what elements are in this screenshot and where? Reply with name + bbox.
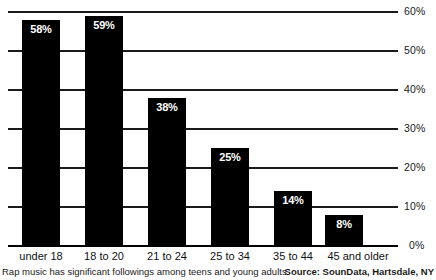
bar-chart-figure: 60% 50% 40% 30% 20% 10% 0% 58% 59% 38% 2… [0,0,436,280]
category-label-25-to-34: 25 to 34 [200,250,260,263]
category-label-45-and-older: 45 and older [316,250,400,263]
category-label-35-to-44: 35 to 44 [263,250,323,263]
category-label-21-to-24: 21 to 24 [137,250,197,263]
bar-value-18-to-20: 59% [85,19,123,31]
bar-value-45-and-older: 8% [325,218,363,230]
bar-21-to-24[interactable]: 38% [148,98,186,246]
bar-18-to-20[interactable]: 59% [85,16,123,246]
bar-45-and-older[interactable]: 8% [325,215,363,246]
bar-value-under-18: 58% [22,23,60,35]
category-axis: under 18 18 to 20 21 to 24 25 to 34 35 t… [0,250,436,266]
bar-25-to-34[interactable]: 25% [211,148,249,246]
category-label-under-18: under 18 [11,250,71,263]
bar-under-18[interactable]: 58% [22,20,60,246]
chart-footer: Rap music has significant followings amo… [0,266,436,280]
category-label-18-to-20: 18 to 20 [74,250,134,263]
caption-text: Rap music has significant followings amo… [2,266,289,278]
plot-area: 60% 50% 40% 30% 20% 10% 0% 58% 59% 38% 2… [0,0,436,252]
bars-layer: 58% 59% 38% 25% 14% 8% [0,0,436,252]
source-attribution: Source: SounData, Hartsdale, NY [285,266,434,278]
bar-value-35-to-44: 14% [274,194,312,206]
bar-35-to-44[interactable]: 14% [274,191,312,246]
bar-value-25-to-34: 25% [211,151,249,163]
bar-value-21-to-24: 38% [148,101,186,113]
